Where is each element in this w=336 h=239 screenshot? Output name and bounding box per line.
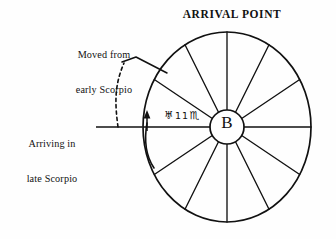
hub-label: B [210,113,244,133]
spoke-240 [154,136,212,175]
annotation-moved-line1: Moved from [58,49,150,61]
planet-placement-label: ♅11♏ [146,96,200,135]
annotation-arriving-line1: Arriving in [6,138,98,150]
uranus-icon: ♅ [164,109,175,122]
spoke-120 [242,136,300,175]
spoke-210 [185,142,219,210]
spoke-150 [236,142,270,210]
placement-degree: 11 [175,110,190,121]
spoke-60 [242,80,300,119]
diagram-canvas: ARRIVAL POINT Moved from early Scorpio A… [0,0,336,239]
annotation-arriving-line2: late Scorpio [6,173,98,185]
annotation-moved-line2: early Scorpio [58,84,150,96]
scorpio-icon: ♏ [189,109,200,122]
spoke-30 [236,45,270,113]
annotation-moved: Moved from early Scorpio [58,26,150,118]
page-title: ARRIVAL POINT [176,8,288,20]
annotation-arriving: Arriving in late Scorpio [6,115,98,207]
